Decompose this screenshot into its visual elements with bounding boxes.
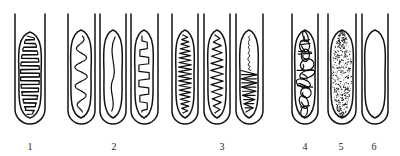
figure-root: 123456 [0,0,400,156]
tube-content-body-outline [365,30,386,118]
stepped-wave-tube [131,14,158,124]
tube-content-body-outline [135,30,154,118]
large-wave-tube [68,14,95,124]
single-s-curve-tube [100,14,126,124]
label-1: 1 [28,141,33,152]
tube-content-body-outline [19,32,42,118]
stippled-tube [328,14,356,124]
fine-sawtooth-tube-a [172,14,198,124]
fine-sawtooth-tube-b [204,14,230,124]
tube-content-body-outline [331,30,354,118]
tube-content-body-outline [295,30,316,118]
label-6: 6 [372,141,377,152]
split-thread-sawtooth-tube [236,14,263,124]
label-5: 5 [339,141,344,152]
label-2: 2 [112,141,117,152]
tangled-scribble-tube [292,14,318,124]
label-4: 4 [303,141,308,152]
labels-layer: 123456 [28,141,377,152]
tube-series-figure: 123456 [0,0,400,156]
empty-tube [362,14,388,124]
tubes-layer [15,14,388,124]
dense-horizontal-hatch-tube [15,14,45,124]
label-3: 3 [220,141,225,152]
